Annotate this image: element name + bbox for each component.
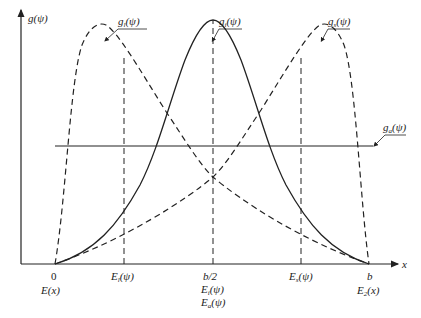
svg-text:b: b	[367, 270, 373, 282]
svg-text:gi(ψ): gi(ψ)	[219, 15, 241, 29]
svg-text:Es(ψ): Es(ψ)	[288, 270, 313, 284]
svg-text:b/2: b/2	[203, 270, 218, 282]
tick-origin: 0 E(x)	[40, 270, 60, 297]
svg-text:Ea(ψ): Ea(ψ)	[200, 296, 226, 310]
label-g-a: ga(ψ)	[375, 121, 406, 145]
svg-text:ga(ψ): ga(ψ)	[383, 121, 406, 135]
svg-text:0: 0	[51, 270, 57, 282]
svg-text:Ei(ψ): Ei(ψ)	[200, 283, 224, 297]
tick-es: Es(ψ)	[288, 270, 313, 284]
tick-end: b E2(x)	[356, 270, 380, 298]
tick-mid: b/2 Ei(ψ) Ea(ψ)	[200, 270, 226, 310]
svg-text:El(ψ): El(ψ)	[110, 270, 134, 284]
label-g-i: gi(ψ)	[213, 15, 242, 40]
svg-text:E(x): E(x)	[40, 284, 60, 297]
svg-text:E2(x): E2(x)	[356, 284, 380, 298]
x-axis-label: x	[401, 258, 407, 270]
label-g-s: gs(ψ)	[322, 15, 351, 40]
diagram-figure: g(ψ) x gl(ψ) gi(ψ) gs(ψ) ga(ψ) 0 E(x) El…	[0, 0, 421, 318]
curve-g-l	[55, 24, 369, 264]
curve-g-s	[55, 24, 369, 264]
label-g-l: gl(ψ)	[106, 15, 147, 40]
svg-text:gl(ψ): gl(ψ)	[118, 15, 140, 29]
svg-text:gs(ψ): gs(ψ)	[328, 15, 351, 29]
tick-el: El(ψ)	[110, 270, 134, 284]
curve-g-i	[55, 20, 369, 264]
y-axis-label: g(ψ)	[28, 12, 48, 25]
